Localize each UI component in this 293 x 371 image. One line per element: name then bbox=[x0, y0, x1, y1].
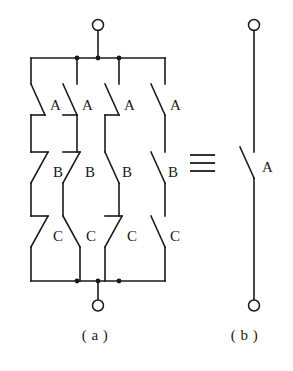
switch-a-3-blade bbox=[105, 84, 119, 115]
switch-a-1-blade bbox=[31, 84, 45, 115]
terminal-top-b bbox=[249, 20, 260, 31]
figure-root: A A A A B B B B C C C C A ( bbox=[0, 0, 293, 371]
switch-c-1-blade bbox=[31, 216, 48, 247]
switch-b-2-blade bbox=[63, 152, 80, 183]
equivalence-symbol bbox=[190, 155, 215, 171]
switch-b-blade bbox=[240, 147, 254, 178]
switch-label-a-1: A bbox=[50, 97, 61, 113]
circuit-diagram: A A A A B B B B C C C C A bbox=[0, 0, 293, 371]
switch-a-4-blade bbox=[151, 84, 165, 115]
switch-label-a-3: A bbox=[124, 97, 135, 113]
switch-label-b-1: B bbox=[53, 164, 63, 180]
switch-label-b-3: B bbox=[122, 164, 132, 180]
switch-label-b-2: B bbox=[85, 164, 95, 180]
switch-label-c-2: C bbox=[86, 228, 96, 244]
switch-label-a-4: A bbox=[170, 97, 181, 113]
switch-label-c-3: C bbox=[127, 228, 137, 244]
switch-b-4-blade bbox=[151, 152, 165, 183]
switch-label-c-4: C bbox=[170, 228, 180, 244]
switch-label-b-4: B bbox=[168, 164, 178, 180]
junction-dot-top-2 bbox=[96, 56, 101, 61]
terminal-bottom-a bbox=[93, 300, 104, 311]
switch-a-2-blade bbox=[63, 84, 77, 115]
switch-label-b-circuit: A bbox=[262, 159, 273, 175]
terminal-bottom-b bbox=[249, 300, 260, 311]
switch-label-c-1: C bbox=[53, 228, 63, 244]
switch-label-a-2: A bbox=[82, 97, 93, 113]
switch-c-2-blade bbox=[63, 216, 80, 247]
circuit-b bbox=[240, 20, 260, 312]
caption-a: ( a ) bbox=[0, 327, 190, 344]
junction-dot-bottom-1 bbox=[75, 279, 80, 284]
switch-c-3-blade bbox=[105, 216, 122, 247]
switch-b-3-blade bbox=[105, 152, 119, 183]
terminal-top-a bbox=[93, 20, 104, 31]
switch-b-1-blade bbox=[31, 152, 48, 183]
junction-dot-bottom-3 bbox=[117, 279, 122, 284]
switch-c-4-blade bbox=[151, 216, 165, 247]
caption-b: ( b ) bbox=[196, 327, 293, 344]
circuit-a bbox=[31, 20, 165, 312]
